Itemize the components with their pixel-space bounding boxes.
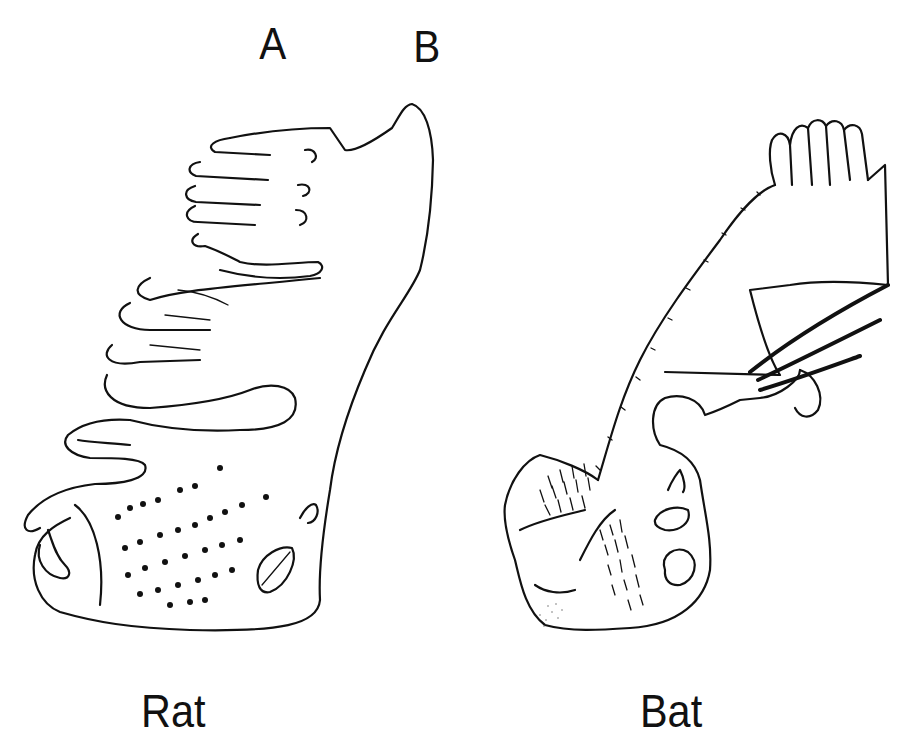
species-label-bat: Bat xyxy=(640,688,702,734)
species-label-rat: Rat xyxy=(141,688,205,734)
whisker-follicles xyxy=(115,465,269,608)
rat-drawing xyxy=(25,104,433,630)
bat-drawing xyxy=(505,120,888,630)
figure-drawings xyxy=(0,0,907,750)
